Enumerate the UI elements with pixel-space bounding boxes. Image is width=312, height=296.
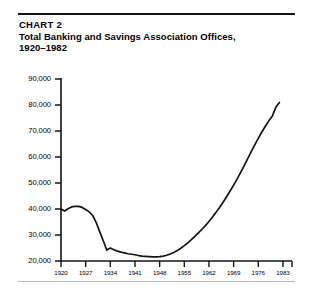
chart-number: CHART 2: [19, 19, 299, 31]
chart-title-line-2: 1920–1982: [19, 42, 299, 54]
y-axis-tick-label: 70,000: [7, 127, 51, 135]
y-axis-tick-label: 60,000: [7, 153, 51, 161]
y-axis-tick-label: 40,000: [7, 205, 51, 213]
x-axis-tick-label: 1983: [268, 269, 298, 276]
page-title: CHART 2 Total Banking and Savings Associ…: [19, 19, 299, 54]
y-axis-tick-label: 90,000: [7, 75, 51, 83]
bottom-rule: [18, 281, 295, 282]
line-chart-svg: [0, 62, 312, 282]
y-axis-ticks: [55, 79, 61, 261]
y-axis-tick-label: 30,000: [7, 231, 51, 239]
chart-title-line-1: Total Banking and Savings Association Of…: [19, 31, 299, 43]
y-axis-tick-label: 50,000: [7, 179, 51, 187]
top-rule: [18, 13, 295, 15]
series-line-total-offices: [61, 102, 279, 256]
y-axis-tick-label: 80,000: [7, 101, 51, 109]
y-axis-tick-label: 20,000: [7, 257, 51, 265]
x-axis-ticks: [61, 261, 292, 267]
chart-axes: [61, 78, 292, 261]
chart-plot-area: 90,00080,00070,00060,00050,00040,00030,0…: [0, 62, 312, 282]
chart-page: CHART 2 Total Banking and Savings Associ…: [0, 0, 312, 296]
